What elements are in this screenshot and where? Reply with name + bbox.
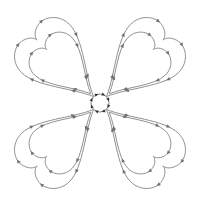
- heart-loops-diagram: [0, 0, 201, 206]
- triangle-arrow-icon: [120, 158, 125, 163]
- triangle-arrow-icon: [121, 169, 126, 174]
- triangle-arrow-icon: [75, 43, 80, 48]
- triangle-arrow-icon: [75, 158, 80, 163]
- triangle-arrow-icon: [155, 123, 160, 128]
- triangle-arrow-icon: [74, 169, 79, 174]
- triangle-arrow-icon: [166, 77, 171, 82]
- triangle-arrow-icon: [121, 32, 126, 37]
- triangle-arrow-icon: [29, 77, 34, 82]
- triangle-arrow-icon: [166, 124, 171, 129]
- triangle-arrow-icon: [29, 124, 34, 129]
- triangle-arrow-icon: [120, 43, 125, 48]
- triangle-arrow-icon: [155, 78, 160, 83]
- hub-circle: [91, 94, 109, 112]
- triangle-arrow-icon: [40, 78, 45, 83]
- triangle-arrow-icon: [40, 123, 45, 128]
- triangle-arrow-icon: [74, 32, 79, 37]
- center-hub: [89, 92, 110, 113]
